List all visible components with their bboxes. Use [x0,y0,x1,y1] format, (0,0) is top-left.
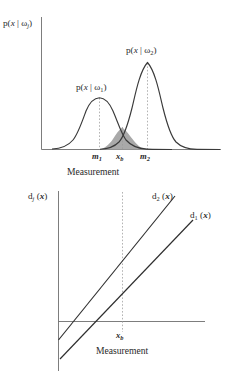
upper-xlabel: Measurement [67,166,120,177]
lower-line-d1 [60,220,193,359]
lower-line1-close: ) [208,210,211,220]
upper-tick-m1-sub: 1 [99,155,102,162]
upper-curve2-label: p(x | ω2) [126,45,157,56]
upper-ylabel: p(x | ωj) [3,18,32,29]
upper-ylabel-p: p( [3,18,11,28]
upper-curve2-p: p( [126,45,134,55]
lower-panel: dj (x) d2 (x) d1 (x) xb [28,191,211,371]
figure-svg: p(x | ωj) p(x | ω1) p(x | ω2) [0,0,239,380]
lower-xlabel: Measurement [96,345,149,356]
lower-line2-label: d2 (x) [152,191,173,202]
lower-line1-label: d1 (x) [190,210,211,221]
lower-ylabel-close: ) [44,191,47,201]
lower-line-d2 [59,196,176,340]
lower-tick-xb-sub: b [120,334,123,341]
upper-tick-m2: m2 [140,151,151,162]
upper-ylabel-close: ) [29,18,32,28]
figure-container: p(x | ωj) p(x | ω1) p(x | ω2) [0,0,239,380]
upper-curve1-label: p(x | ω1) [76,82,107,93]
upper-tick-xb-sub: b [120,155,123,162]
upper-tick-m1: m1 [92,151,102,162]
upper-curve2-close: ) [153,45,156,55]
upper-curve1-close: ) [103,82,106,92]
upper-curve1-p: p( [76,82,84,92]
lower-line2-close: ) [170,191,173,201]
upper-tick-m2-sub: 2 [146,155,151,162]
upper-tick-xb: xb [115,151,124,162]
lower-ylabel: dj (x) [28,191,47,202]
error-region [99,128,147,150]
upper-panel: p(x | ωj) p(x | ω1) p(x | ω2) [3,17,221,177]
